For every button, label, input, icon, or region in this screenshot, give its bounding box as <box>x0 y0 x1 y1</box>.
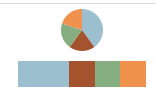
bar-segment-brown <box>69 61 95 87</box>
top-divider <box>0 3 156 4</box>
pie-chart <box>61 9 103 51</box>
stacked-bar <box>18 61 146 87</box>
bar-segment-orange <box>120 61 146 87</box>
bar-segment-green <box>95 61 121 87</box>
bar-segment-blue <box>18 61 69 87</box>
